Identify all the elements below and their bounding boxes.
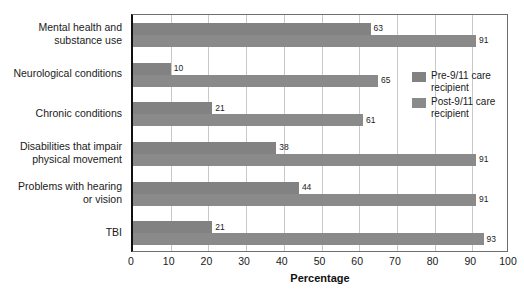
bar [133,23,371,35]
bar [133,75,378,87]
gridline [359,15,360,251]
bar-value-label: 61 [366,116,375,125]
category-label: Chronic conditions [0,107,122,120]
x-tick-label: 30 [238,255,250,267]
x-tick-label: 90 [464,255,476,267]
legend-item[interactable]: Post-9/11 care recipient [412,96,520,119]
plot-area: 639110652161389144912193 [131,14,508,252]
bar-value-label: 10 [174,64,183,73]
gridline [208,15,209,251]
bar-value-label: 93 [487,235,496,244]
x-tick-label: 80 [427,255,439,267]
bar [133,233,484,245]
bar-value-label: 65 [381,76,390,85]
category-label: Neurological conditions [0,67,122,80]
bar [133,194,476,206]
bar-value-label: 91 [479,195,488,204]
legend-swatch-icon [412,98,426,108]
bar [133,114,363,126]
x-tick-label: 10 [163,255,175,267]
legend-label: Post-9/11 care recipient [431,96,495,119]
bar [133,154,476,166]
gridline [246,15,247,251]
bar-value-label: 21 [215,104,224,113]
x-axis-title: Percentage [131,272,509,284]
gridline [284,15,285,251]
legend-item[interactable]: Pre-9/11 care recipient [412,70,520,93]
category-label: Problems with hearing or vision [0,180,122,205]
bar-chart: Mental health and substance useNeurologi… [0,0,524,295]
gridline [322,15,323,251]
x-tick-label: 70 [389,255,401,267]
x-tick-label: 0 [128,255,134,267]
legend-swatch-icon [412,72,426,82]
bar [133,35,476,47]
x-tick-label: 20 [201,255,213,267]
x-tick-label: 50 [314,255,326,267]
category-label: Mental health and substance use [0,21,122,46]
bar-value-label: 91 [479,36,488,45]
bar-value-label: 44 [302,183,311,192]
bar [133,221,212,233]
bar-value-label: 63 [374,24,383,33]
category-label: TBI [0,226,122,239]
category-label: Disabilities that impair physical moveme… [0,140,122,165]
bar [133,142,276,154]
legend-label: Pre-9/11 care recipient [431,70,491,93]
x-tick-label: 60 [351,255,363,267]
bar [133,102,212,114]
category-axis-labels: Mental health and substance useNeurologi… [0,14,126,252]
x-tick-label: 40 [276,255,288,267]
gridline [397,15,398,251]
bar [133,182,299,194]
chart-legend: Pre-9/11 care recipientPost-9/11 care re… [412,70,520,122]
bar-value-label: 91 [479,155,488,164]
bar-value-label: 38 [279,143,288,152]
gridline [435,15,436,251]
gridline [472,15,473,251]
bar-value-label: 21 [215,223,224,232]
x-tick-label: 100 [499,255,517,267]
bar [133,63,171,75]
gridline [171,15,172,251]
